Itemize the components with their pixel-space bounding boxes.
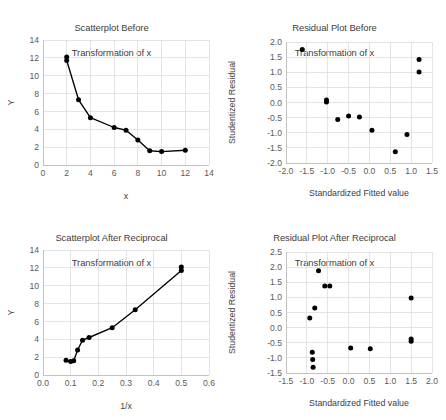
data-point <box>64 58 69 63</box>
data-point <box>357 115 362 120</box>
y-tick-label: 10 <box>29 281 39 291</box>
x-axis-title: x <box>124 191 129 201</box>
data-point <box>312 305 317 310</box>
x-axis-title: Standardized Fitted value <box>309 398 409 408</box>
y-tick-label: 14 <box>29 35 39 45</box>
chart-residual-plot-before: Residual Plot Before Transformation of x… <box>223 0 446 210</box>
data-point <box>335 117 340 122</box>
data-point <box>393 149 398 154</box>
x-tick-labels: -1.5-1.0-0.50.00.51.01.52.0 <box>279 376 439 386</box>
data-point <box>417 69 422 74</box>
data-points <box>64 54 188 154</box>
gridlines <box>286 252 432 373</box>
y-axis-title: Y <box>6 309 16 315</box>
data-point <box>369 128 374 133</box>
data-line <box>66 267 181 362</box>
x-tick-label: 1.0 <box>405 166 417 176</box>
y-tick-label: 2.0 <box>270 37 282 47</box>
y-tick-label: -1.0 <box>267 128 282 138</box>
y-tick-labels: -2.0-1.5-1.0-0.50.00.51.01.52.0 <box>267 37 282 168</box>
x-axis-title: 1/x <box>120 401 132 411</box>
x-tick-label: 4 <box>88 168 93 178</box>
x-tick-label: 0 <box>41 168 46 178</box>
y-tick-label: 14 <box>29 245 39 255</box>
x-tick-label: 6 <box>112 168 117 178</box>
data-point <box>324 99 329 104</box>
data-point <box>348 345 353 350</box>
y-tick-label: 6 <box>34 317 39 327</box>
y-axis-title: Y <box>6 99 16 105</box>
y-axis-title: Studentized Residual <box>227 61 237 144</box>
y-tick-label: 4 <box>34 334 39 344</box>
y-tick-label: 6 <box>34 107 39 117</box>
data-point <box>316 268 321 273</box>
data-point <box>75 348 80 353</box>
data-point <box>310 350 315 355</box>
data-points <box>307 268 413 369</box>
y-tick-label: 8 <box>34 299 39 309</box>
x-tick-label: 0.2 <box>92 378 104 388</box>
plot-area: 024681012140.00.10.20.30.40.50.61/xY <box>0 210 223 420</box>
x-tick-label: 1.5 <box>426 166 438 176</box>
x-tick-labels: -2.0-1.5-1.0-0.50.00.51.01.5 <box>279 166 439 176</box>
plot-area: -2.0-1.5-1.0-0.50.00.51.01.52.0-2.0-1.5-… <box>223 0 446 210</box>
y-tick-label: -0.5 <box>267 113 282 123</box>
plot-area: 0246810121402468101214xY <box>0 0 223 210</box>
x-tick-label: 14 <box>204 168 214 178</box>
y-tick-label: -0.5 <box>267 338 282 348</box>
x-tick-labels: 02468101214 <box>41 168 214 178</box>
y-tick-labels: 02468101214 <box>29 35 39 170</box>
x-tick-label: -1.5 <box>299 166 314 176</box>
y-tick-label: 1.5 <box>270 52 282 62</box>
x-tick-label: 0.6 <box>203 378 215 388</box>
data-point <box>311 365 316 370</box>
y-tick-labels: -1.5-1.0-0.50.00.51.01.52.02.5 <box>267 247 282 378</box>
y-tick-label: 1.5 <box>270 277 282 287</box>
data-point <box>133 307 138 312</box>
x-tick-label: 0.5 <box>384 166 396 176</box>
x-tick-label: 1.5 <box>405 376 417 386</box>
x-tick-label: 2.0 <box>426 376 438 386</box>
figure-panel-grid: Scatterplot Before Transformation of x 0… <box>0 0 446 420</box>
data-point <box>300 47 305 52</box>
x-tick-label: 0.5 <box>363 376 375 386</box>
y-tick-label: 0.0 <box>270 323 282 333</box>
y-tick-label: 12 <box>29 263 39 273</box>
x-tick-label: -1.0 <box>299 376 314 386</box>
chart-scatterplot-after-reciprocal: Scatterplot After Reciprocal Transformat… <box>0 210 223 420</box>
gridlines <box>286 42 432 163</box>
data-point <box>71 358 76 363</box>
data-point <box>417 57 422 62</box>
x-tick-labels: 0.00.10.20.30.40.50.6 <box>37 378 215 388</box>
x-tick-label: 0.4 <box>148 378 160 388</box>
chart-scatterplot-before: Scatterplot Before Transformation of x 0… <box>0 0 223 210</box>
data-point <box>88 115 93 120</box>
x-tick-label: -2.0 <box>279 166 294 176</box>
x-axis-title: Standardized Fitted value <box>309 188 409 198</box>
y-tick-label: 0 <box>34 160 39 170</box>
data-point <box>147 148 152 153</box>
data-line <box>67 57 186 152</box>
x-tick-label: 0.5 <box>175 378 187 388</box>
y-tick-label: 1.0 <box>270 67 282 77</box>
y-tick-label: 8 <box>34 89 39 99</box>
y-tick-label: -1.5 <box>267 143 282 153</box>
y-tick-label: 12 <box>29 53 39 63</box>
y-tick-labels: 02468101214 <box>29 245 39 380</box>
data-point <box>87 335 92 340</box>
data-point <box>409 295 414 300</box>
y-tick-label: 2 <box>34 352 39 362</box>
x-tick-label: 2 <box>64 168 69 178</box>
x-tick-label: 8 <box>135 168 140 178</box>
data-point <box>307 315 312 320</box>
y-tick-label: 1.0 <box>270 292 282 302</box>
data-point <box>124 128 129 133</box>
data-point <box>80 338 85 343</box>
x-tick-label: 10 <box>157 168 167 178</box>
x-tick-label: 1.0 <box>384 376 396 386</box>
y-tick-label: 2 <box>34 142 39 152</box>
y-tick-label: 4 <box>34 124 39 134</box>
data-point <box>310 357 315 362</box>
data-point <box>368 346 373 351</box>
data-point <box>110 325 115 330</box>
